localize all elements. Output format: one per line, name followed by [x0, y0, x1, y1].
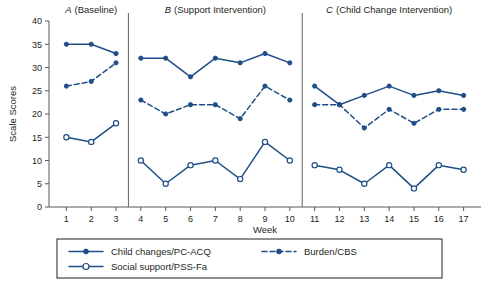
- data-point-2-w15: [411, 186, 416, 191]
- data-point-2-w4: [138, 158, 143, 163]
- x-tick-label-14: 14: [384, 214, 394, 224]
- data-point-1-w16: [437, 107, 441, 111]
- data-point-1-w10: [288, 98, 292, 102]
- data-series-layer: [64, 42, 466, 191]
- legend-label-0: Child changes/PC-ACQ: [111, 246, 211, 257]
- y-axis-title: Scale Scores: [7, 86, 18, 142]
- data-point-1-w6: [188, 103, 192, 107]
- data-point-2-w7: [213, 158, 218, 163]
- data-point-1-w15: [412, 121, 416, 125]
- data-point-1-w5: [164, 112, 168, 116]
- data-point-2-w8: [238, 177, 243, 182]
- data-point-0-w11: [313, 84, 317, 88]
- panel-title-A: A(Baseline): [64, 4, 117, 15]
- y-tick-label-0: 0: [37, 202, 42, 212]
- y-tick-label-35: 35: [32, 40, 42, 50]
- x-tick-label-12: 12: [334, 214, 344, 224]
- data-point-2-w10: [287, 158, 292, 163]
- x-tick-label-6: 6: [188, 214, 193, 224]
- x-tick-label-3: 3: [114, 214, 119, 224]
- legend-swatch-marker-2: [83, 264, 89, 270]
- data-point-0-w5: [164, 56, 168, 60]
- data-point-0-w16: [437, 89, 441, 93]
- x-tick-label-13: 13: [359, 214, 369, 224]
- legend-box: [57, 239, 442, 278]
- data-point-1-w11: [313, 103, 317, 107]
- x-tick-label-10: 10: [285, 214, 295, 224]
- plot-axes: [49, 21, 481, 207]
- data-point-1-w17: [462, 107, 466, 111]
- data-point-0-w13: [362, 93, 366, 97]
- series-0: [64, 42, 465, 107]
- data-point-1-w8: [238, 117, 242, 121]
- data-point-1-w14: [387, 107, 391, 111]
- x-tick-label-2: 2: [89, 214, 94, 224]
- data-point-0-w17: [462, 93, 466, 97]
- data-point-1-w4: [139, 98, 143, 102]
- x-tick-label-7: 7: [213, 214, 218, 224]
- x-tick-label-8: 8: [238, 214, 243, 224]
- data-point-2-w11: [312, 163, 317, 168]
- x-tick-label-17: 17: [459, 214, 469, 224]
- series-1: [64, 61, 465, 130]
- panel-dividers: [128, 13, 302, 207]
- y-tick-label-10: 10: [32, 156, 42, 166]
- data-point-0-w4: [139, 56, 143, 60]
- x-tick-label-5: 5: [163, 214, 168, 224]
- chart-svg: 0510152025303540123456789101112131415161…: [0, 0, 497, 285]
- data-point-0-w15: [412, 93, 416, 97]
- data-point-0-w9: [263, 51, 267, 55]
- chart-legend: Child changes/PC-ACQBurden/CBSSocial sup…: [57, 239, 442, 278]
- legend-swatch-marker-1: [277, 249, 282, 254]
- x-tick-label-9: 9: [262, 214, 267, 224]
- legend-label-1: Burden/CBS: [304, 246, 357, 257]
- data-point-0-w14: [387, 84, 391, 88]
- x-axis-title: Week: [253, 224, 277, 235]
- data-point-1-w3: [114, 61, 118, 65]
- series-line-0-panel-C: [315, 86, 464, 105]
- x-tick-label-15: 15: [409, 214, 419, 224]
- series-2: [64, 121, 466, 191]
- x-tick-label-4: 4: [138, 214, 143, 224]
- y-tick-label-25: 25: [32, 86, 42, 96]
- data-point-2-w6: [188, 163, 193, 168]
- data-point-0-w3: [114, 51, 118, 55]
- data-point-0-w10: [288, 61, 292, 65]
- x-tick-label-16: 16: [434, 214, 444, 224]
- data-point-2-w12: [337, 167, 342, 172]
- data-point-1-w7: [213, 103, 217, 107]
- y-tick-label-5: 5: [37, 179, 42, 189]
- data-point-2-w14: [387, 163, 392, 168]
- x-tick-label-11: 11: [310, 214, 319, 224]
- data-point-2-w9: [262, 139, 267, 144]
- x-tick-label-1: 1: [64, 214, 69, 224]
- data-point-1-w9: [263, 84, 267, 88]
- data-point-2-w13: [362, 181, 367, 186]
- legend-swatch-marker-0: [84, 249, 89, 254]
- data-point-0-w2: [89, 42, 93, 46]
- data-point-2-w2: [89, 139, 94, 144]
- y-tick-label-30: 30: [32, 63, 42, 73]
- data-point-0-w6: [188, 75, 192, 79]
- data-point-2-w17: [461, 167, 466, 172]
- data-point-1-w2: [89, 79, 93, 83]
- data-point-2-w3: [113, 121, 118, 126]
- chart-figure: 0510152025303540123456789101112131415161…: [0, 0, 497, 285]
- data-point-0-w8: [238, 61, 242, 65]
- data-point-0-w7: [213, 56, 217, 60]
- y-tick-label-20: 20: [32, 109, 42, 119]
- y-tick-label-40: 40: [32, 16, 42, 26]
- data-point-2-w1: [64, 135, 69, 140]
- panel-title-C: C(Child Change Intervention): [326, 4, 452, 15]
- legend-label-2: Social support/PSS-Fa: [111, 261, 208, 272]
- panel-title-B: B(Support Intervention): [165, 4, 266, 15]
- data-point-0-w1: [64, 42, 68, 46]
- data-point-1-w12: [337, 103, 341, 107]
- data-point-2-w16: [436, 163, 441, 168]
- panel-titles: A(Baseline)B(Support Intervention)C(Chil…: [64, 4, 452, 15]
- data-point-2-w5: [163, 181, 168, 186]
- data-point-1-w1: [64, 84, 68, 88]
- data-point-1-w13: [362, 126, 366, 130]
- y-tick-label-15: 15: [32, 133, 42, 143]
